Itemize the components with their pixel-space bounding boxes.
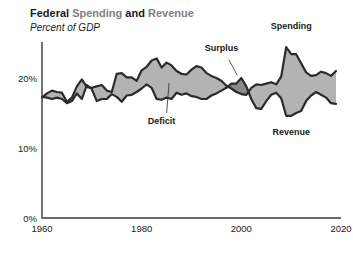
annotation-revenue: Revenue (272, 127, 310, 137)
y-tick-label: 20% (18, 73, 38, 84)
plot-area (42, 47, 336, 116)
y-tick-label: 0% (23, 213, 37, 224)
annotation-label: Spending (271, 21, 312, 31)
page-title: Federal Spending and Revenue (30, 7, 194, 19)
annotation-spending: Spending (271, 21, 312, 31)
annotation-label: Revenue (272, 127, 310, 137)
annotation-leader-line (229, 60, 237, 75)
x-tick-label: 1980 (131, 223, 152, 234)
x-tick-label: 2000 (231, 223, 252, 234)
annotation-label: Deficit (148, 116, 176, 126)
annotation-surplus: Surplus (205, 43, 239, 75)
y-tick-label: 10% (18, 143, 38, 154)
x-tick-label: 2020 (330, 223, 351, 234)
chart-title-group: Federal Spending and Revenue Percent of … (30, 7, 194, 33)
annotation-label: Surplus (205, 43, 239, 53)
chart-subtitle: Percent of GDP (30, 22, 100, 33)
x-tick-label: 1960 (31, 223, 52, 234)
deficit-band (248, 47, 336, 116)
chart-figure: Federal Spending and Revenue Percent of … (0, 0, 353, 259)
